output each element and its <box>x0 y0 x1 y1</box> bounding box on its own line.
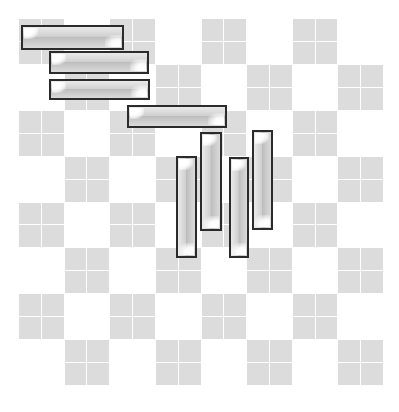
bar-h2[interactable] <box>49 51 149 74</box>
bar-highlight-bottom-right <box>208 113 224 125</box>
bar-highlight-bottom-right <box>203 216 219 228</box>
bar-h3[interactable] <box>49 79 150 100</box>
bar-h4[interactable] <box>127 105 227 128</box>
bar-highlight-bottom-right <box>178 243 194 255</box>
bar-highlight-bottom-right <box>130 59 146 71</box>
gridline-horizontal <box>18 247 383 248</box>
bar-sheen <box>129 107 225 126</box>
bar-highlight-top-left <box>24 28 38 39</box>
bar-sheen <box>51 81 148 98</box>
bar-highlight-top-left <box>130 108 144 119</box>
gridline-horizontal <box>18 270 383 271</box>
gridline-horizontal <box>18 18 383 19</box>
chart-canvas <box>0 0 399 412</box>
bar-highlight-top-left <box>255 133 269 144</box>
gridline-horizontal <box>18 316 383 317</box>
gridline-horizontal <box>18 362 383 363</box>
gridline-horizontal <box>18 293 383 294</box>
bar-sheen <box>178 158 195 256</box>
bar-v4[interactable] <box>252 130 273 230</box>
bar-highlight-top-left <box>179 159 193 170</box>
bar-h1[interactable] <box>21 25 124 50</box>
bar-highlight-top-left <box>52 82 66 93</box>
bar-sheen <box>51 53 147 72</box>
bar-highlight-top-left <box>52 54 66 65</box>
bar-v2[interactable] <box>200 132 222 231</box>
bar-sheen <box>254 132 271 228</box>
bar-sheen <box>23 27 122 48</box>
bar-highlight-bottom-right <box>254 215 270 227</box>
bar-highlight-top-left <box>232 160 246 171</box>
gridline-horizontal <box>18 339 383 340</box>
bar-highlight-top-left <box>203 135 217 146</box>
bar-highlight-bottom-right <box>131 85 147 97</box>
bar-v1[interactable] <box>176 156 197 258</box>
bar-highlight-bottom-right <box>230 243 246 255</box>
bar-v3[interactable] <box>229 157 249 258</box>
bar-sheen <box>202 134 220 229</box>
bar-highlight-bottom-right <box>105 35 121 47</box>
bar-sheen <box>231 159 247 256</box>
